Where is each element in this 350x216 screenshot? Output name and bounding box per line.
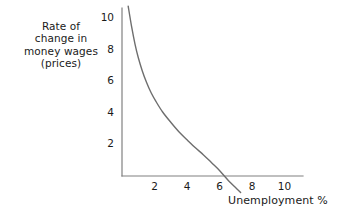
y-axis-label-line-2: change in: [16, 32, 106, 44]
y-tick-label: 8: [94, 43, 114, 55]
x-axis-label: Unemployment %: [228, 194, 328, 207]
y-axis-label: Rate of change in money wages (prices): [16, 20, 106, 70]
x-tick-label: 10: [274, 180, 296, 192]
y-tick-label: 10: [94, 11, 114, 23]
y-tick-label: 6: [94, 74, 114, 86]
x-tick-label: 6: [209, 180, 231, 192]
x-tick-label: 4: [176, 180, 198, 192]
series-group: [128, 6, 240, 192]
y-axis-label-line-4: (prices): [16, 57, 106, 69]
y-tick-label: 4: [94, 106, 114, 118]
x-tick-label: 8: [241, 180, 263, 192]
phillips-curve-line: [128, 6, 240, 192]
y-axis-label-line-1: Rate of: [16, 20, 106, 32]
phillips-curve-figure: Rate of change in money wages (prices) U…: [0, 0, 350, 216]
axes-group: [122, 8, 303, 176]
y-axis-label-line-3: money wages: [16, 45, 106, 57]
x-tick-label: 2: [144, 180, 166, 192]
y-tick-label: 2: [94, 137, 114, 149]
